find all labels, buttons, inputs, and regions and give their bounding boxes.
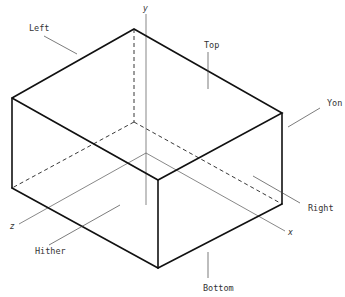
label-top: Top — [204, 40, 219, 50]
right-leader — [253, 176, 300, 203]
z-axis-label: z — [9, 222, 15, 231]
top-face-outline — [12, 29, 282, 180]
y-axis-label: y — [142, 4, 148, 13]
hither-leader — [49, 205, 120, 245]
label-right: Right — [308, 203, 334, 213]
hidden-edges — [12, 29, 282, 204]
leader-lines — [44, 36, 320, 278]
z-axis — [19, 153, 146, 224]
x-axis — [146, 153, 285, 231]
label-yon: Yon — [327, 98, 342, 108]
label-hither: Hither — [35, 246, 66, 256]
box-edges — [12, 29, 282, 268]
x-axis-label: x — [287, 228, 293, 237]
label-left: Left — [29, 23, 49, 33]
label-bottom: Bottom — [203, 283, 234, 293]
edge-bottom-left — [12, 188, 158, 268]
yon-leader — [288, 108, 320, 127]
left-leader — [44, 36, 77, 54]
edge-bottom-right — [158, 204, 282, 268]
hidden-edge-right — [134, 122, 282, 204]
view-volume-diagram: y z x Left Top Yon Right Hither Bottom — [0, 0, 345, 297]
face-labels: Left Top Yon Right Hither Bottom — [29, 23, 342, 293]
